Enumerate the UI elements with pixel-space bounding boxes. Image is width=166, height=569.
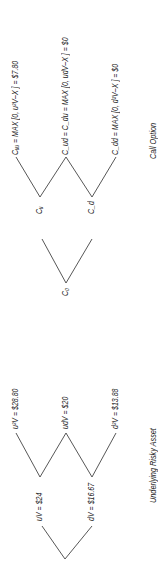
asset-tree-caption: Underlying Risky Asset: [148, 428, 158, 503]
option-node-cu: Cᵤ: [35, 206, 45, 214]
option-node-cd: C_d: [87, 201, 97, 214]
option-node-cuu: Cᵤᵤ = MAX [0, u²V–X ] = $7.80: [11, 61, 21, 155]
option-tree-caption: Call Option: [148, 123, 158, 159]
binomial-tree-diagram: V = $20 uV = $24 dV = $16.67 u²V = $28.8…: [0, 0, 166, 569]
asset-node-downdown: d²V = $13.88: [111, 388, 121, 429]
asset-node-upup: u²V = $28.80: [11, 388, 21, 429]
option-node-c0: C₀: [61, 288, 71, 296]
option-node-cud: C_ud = C_du = MAX [0, udV–X ] = $0: [61, 37, 71, 155]
asset-node-updown: udV = $20: [61, 397, 71, 429]
asset-node-down: dV = $16.67: [87, 483, 97, 521]
asset-node-up: uV = $24: [35, 493, 45, 521]
option-node-cdd: C_dd = MAX [0, d²V–X ] = $0: [111, 64, 121, 155]
tree-edges: [0, 0, 166, 569]
